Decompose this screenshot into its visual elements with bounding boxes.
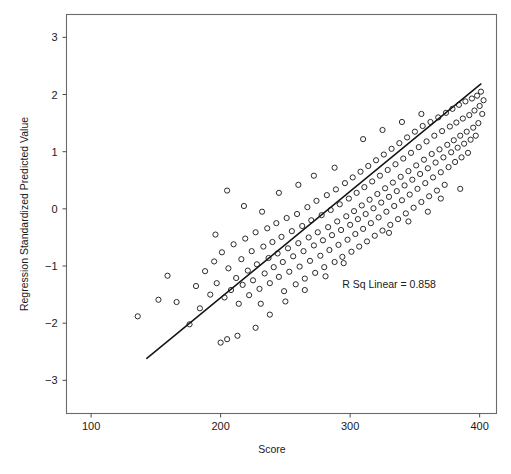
data-point bbox=[348, 222, 353, 227]
data-point bbox=[350, 175, 355, 180]
data-point bbox=[394, 189, 399, 194]
data-point bbox=[218, 340, 223, 345]
data-point bbox=[406, 219, 411, 224]
data-point bbox=[402, 183, 407, 188]
data-point bbox=[270, 239, 275, 244]
data-point bbox=[408, 150, 413, 155]
data-point bbox=[336, 242, 341, 247]
data-point bbox=[257, 286, 262, 291]
data-point bbox=[379, 200, 384, 205]
data-point bbox=[380, 127, 385, 132]
plot-canvas: 3210−1−2−3 100200300400 R Sq Linear = 0.… bbox=[0, 0, 511, 474]
data-point bbox=[338, 227, 343, 232]
data-point bbox=[291, 254, 296, 259]
data-point bbox=[253, 325, 258, 330]
data-point bbox=[462, 141, 467, 146]
data-point bbox=[247, 293, 252, 298]
data-point bbox=[345, 237, 350, 242]
data-point bbox=[285, 246, 290, 251]
data-point bbox=[397, 141, 402, 146]
data-point bbox=[386, 194, 391, 199]
data-point bbox=[165, 273, 170, 278]
data-point bbox=[416, 145, 421, 150]
data-point bbox=[197, 306, 202, 311]
data-point bbox=[236, 301, 241, 306]
data-point bbox=[403, 211, 408, 216]
data-point bbox=[376, 215, 381, 220]
data-point bbox=[253, 230, 258, 235]
data-point bbox=[357, 244, 362, 249]
data-point bbox=[419, 111, 424, 116]
data-point bbox=[296, 241, 301, 246]
data-point bbox=[371, 206, 376, 211]
data-point bbox=[463, 99, 468, 104]
data-point bbox=[322, 265, 327, 270]
data-point bbox=[434, 188, 439, 193]
data-point bbox=[362, 185, 367, 190]
data-point bbox=[433, 160, 438, 165]
data-point bbox=[464, 129, 469, 134]
data-point bbox=[314, 198, 319, 203]
data-point bbox=[388, 222, 393, 227]
data-point bbox=[368, 221, 373, 226]
data-point bbox=[399, 198, 404, 203]
data-point bbox=[267, 312, 272, 317]
data-point bbox=[438, 170, 443, 175]
data-point bbox=[231, 242, 236, 247]
data-point-group bbox=[135, 89, 486, 345]
data-point bbox=[351, 209, 356, 214]
data-point bbox=[340, 254, 345, 259]
x-axis-title: Score bbox=[258, 443, 286, 455]
data-point bbox=[389, 146, 394, 151]
data-point bbox=[249, 249, 254, 254]
data-point bbox=[250, 278, 255, 283]
data-point bbox=[370, 179, 375, 184]
data-point bbox=[454, 120, 459, 125]
data-point bbox=[306, 235, 311, 240]
data-point bbox=[481, 98, 486, 103]
data-point bbox=[294, 211, 299, 216]
data-point bbox=[302, 287, 307, 292]
data-point bbox=[219, 250, 224, 255]
data-point bbox=[341, 261, 346, 266]
data-point bbox=[415, 186, 420, 191]
data-point bbox=[307, 258, 312, 263]
data-point bbox=[460, 116, 465, 121]
y-axis-ticks: 3210−1−2−3 bbox=[45, 31, 67, 386]
data-point bbox=[281, 289, 286, 294]
data-point bbox=[301, 249, 306, 254]
data-point bbox=[429, 151, 434, 156]
data-point bbox=[261, 244, 266, 249]
data-point bbox=[476, 121, 481, 126]
data-point bbox=[262, 271, 267, 276]
data-point bbox=[446, 165, 451, 170]
data-point bbox=[296, 182, 301, 187]
data-point bbox=[332, 259, 337, 264]
data-point bbox=[478, 89, 483, 94]
data-point bbox=[333, 187, 338, 192]
data-point bbox=[419, 199, 424, 204]
data-point bbox=[445, 142, 450, 147]
data-point bbox=[323, 274, 328, 279]
data-point bbox=[437, 147, 442, 152]
data-point bbox=[440, 129, 445, 134]
data-point bbox=[375, 191, 380, 196]
data-point bbox=[449, 150, 454, 155]
data-point bbox=[361, 137, 366, 142]
data-point bbox=[472, 108, 477, 113]
y-tick-label: 1 bbox=[51, 146, 57, 158]
data-point bbox=[337, 202, 342, 207]
data-point bbox=[392, 203, 397, 208]
data-point bbox=[326, 225, 331, 230]
data-point bbox=[401, 156, 406, 161]
data-point bbox=[480, 111, 485, 116]
data-point bbox=[300, 223, 305, 228]
y-tick-label: −1 bbox=[45, 260, 58, 272]
data-point bbox=[353, 231, 358, 236]
data-point bbox=[411, 205, 416, 210]
data-point bbox=[367, 197, 372, 202]
data-point bbox=[239, 257, 244, 262]
data-point bbox=[406, 169, 411, 174]
data-point bbox=[417, 171, 422, 176]
data-point bbox=[381, 152, 386, 157]
